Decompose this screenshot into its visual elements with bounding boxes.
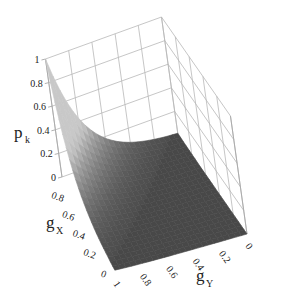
grid-line <box>161 17 178 135</box>
svg-text:p: p <box>14 123 23 142</box>
tick-label: 0.8 <box>30 78 43 89</box>
grid-line <box>58 177 62 178</box>
svg-text:k: k <box>25 134 30 145</box>
grid-line <box>41 59 45 60</box>
grid-line <box>55 153 59 154</box>
svg-text:g: g <box>46 213 55 232</box>
tick-label: 1 <box>34 54 39 65</box>
grid-line <box>49 41 165 83</box>
tick-label: 0.4 <box>71 227 87 242</box>
tick-label: 0.2 <box>82 246 98 261</box>
tick-label: 0.6 <box>34 101 47 112</box>
tick-label: 1 <box>111 279 123 289</box>
y-axis-label: g Y <box>196 266 213 289</box>
surface-patch <box>46 59 58 96</box>
tick-label: 0 <box>100 268 108 280</box>
grid-line <box>165 41 234 140</box>
tick-label: 0 <box>51 172 56 183</box>
tick-label: 0.2 <box>40 148 53 159</box>
grid-line <box>45 83 49 84</box>
tick-label: 0.6 <box>61 208 77 223</box>
tick-label: 0 <box>243 241 255 251</box>
svg-text:g: g <box>196 266 205 285</box>
z-axis-ticks: 00.20.40.60.81 <box>30 54 62 183</box>
svg-text:X: X <box>56 225 64 236</box>
svg-text:Y: Y <box>206 278 213 289</box>
tick-label: 0.8 <box>138 271 154 288</box>
grid-line <box>138 25 155 143</box>
grid-line <box>45 17 161 59</box>
surface-plot: 00.20.40.60.81 00.20.40.60.8 10.80.60.40… <box>0 0 289 307</box>
tick-label: 0.6 <box>164 264 180 281</box>
grid-line <box>52 64 168 106</box>
z-axis-label: p k <box>14 123 30 145</box>
grid-line <box>115 34 132 152</box>
grid-line <box>48 106 52 107</box>
tick-label: 0.8 <box>50 189 66 204</box>
tick-label: 0.2 <box>217 248 233 265</box>
grid-line <box>161 17 230 116</box>
grid-line <box>51 130 55 131</box>
tick-label: 0.4 <box>37 125 50 136</box>
